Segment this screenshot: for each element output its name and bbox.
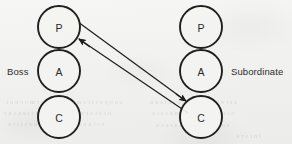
label-subordinate: Subordinate <box>231 66 283 77</box>
transaction-arrows <box>78 22 188 113</box>
ego-state-letter: C <box>55 112 63 124</box>
arrowhead-overlay <box>79 39 186 101</box>
ego-state-letter: A <box>55 66 62 78</box>
left-adult-ego-state[interactable]: A <box>38 50 80 92</box>
ego-state-column-right: P A C <box>180 6 222 138</box>
stimulus-arrowhead <box>176 94 186 101</box>
ego-state-letter: C <box>197 112 205 124</box>
right-adult-ego-state[interactable]: A <box>180 50 222 92</box>
stimulus-arrow <box>78 22 186 101</box>
right-parent-ego-state[interactable]: P <box>180 6 222 48</box>
diagram-canvas: a u o p e r i t o m a n i s o t l e r m … <box>0 0 292 144</box>
response-arrow <box>79 39 188 113</box>
left-parent-ego-state[interactable]: P <box>38 6 80 48</box>
label-boss: Boss <box>7 66 29 77</box>
left-child-ego-state[interactable]: C <box>38 96 80 138</box>
response-arrowhead <box>79 39 90 47</box>
ego-state-column-left: P A C <box>38 6 80 138</box>
ego-state-letter: P <box>55 22 62 34</box>
right-child-ego-state[interactable]: C <box>180 96 222 138</box>
ego-state-letter: A <box>197 66 204 78</box>
ego-state-letter: P <box>197 22 204 34</box>
